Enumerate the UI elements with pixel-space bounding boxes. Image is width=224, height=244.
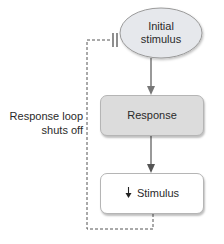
initial-stimulus-label: Initial stimulus [121,20,201,46]
initial-stimulus-line1: Initial [121,20,201,33]
stimulus-node: Stimulus [100,173,204,214]
feedback-loop-label-line1: Response loop [0,109,83,123]
decrease-arrow-icon [125,187,132,198]
stimulus-label-row: Stimulus [101,187,203,200]
arrow-down-icon [147,136,155,173]
response-node: Response [100,95,204,136]
feedback-loop-label-line2: shuts off [0,123,83,137]
response-label: Response [101,109,203,122]
inhibition-bar-icon [113,33,117,47]
stimulus-label: Stimulus [137,187,179,199]
feedback-loop-label: Response loop shuts off [0,109,83,137]
arrow-down-icon [147,58,155,95]
initial-stimulus-line2: stimulus [121,33,201,46]
